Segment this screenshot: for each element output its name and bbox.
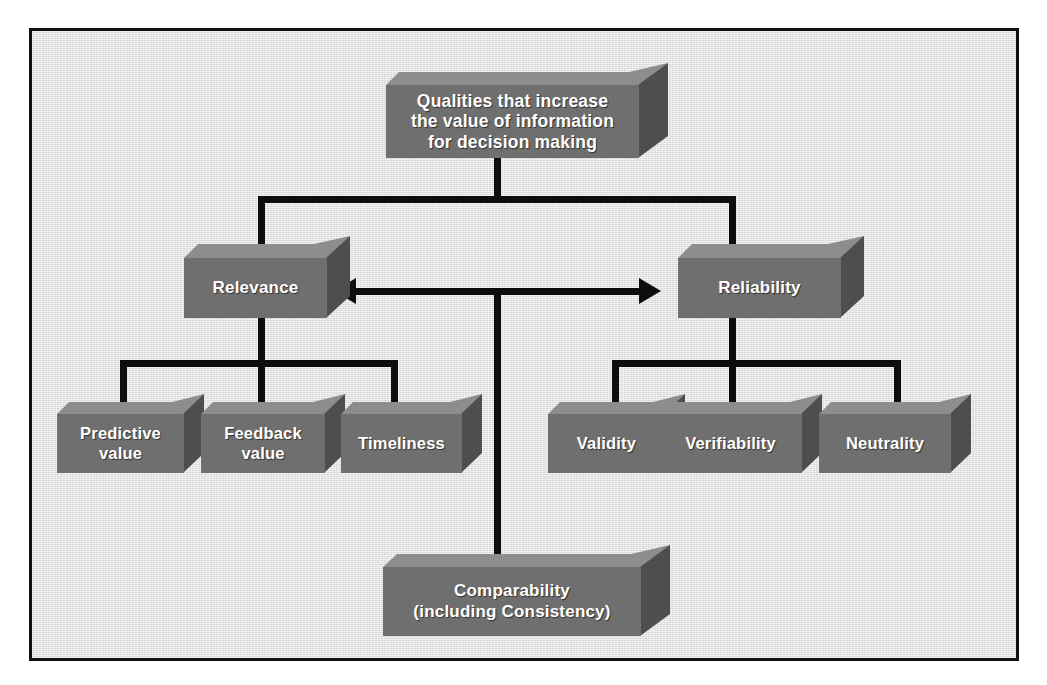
arrow-shaft (356, 288, 639, 295)
connector-split-bar (258, 196, 736, 203)
box-front-face: Reliability (678, 258, 841, 318)
node-neutrality[interactable]: Neutrality (819, 394, 971, 473)
node-verifiability[interactable]: Verifiability (659, 394, 822, 473)
node-comparability[interactable]: Comparability (including Consistency) (383, 545, 670, 636)
box-front-face: Qualities that increase the value of inf… (386, 85, 639, 158)
diagram-canvas: Qualities that increase the value of inf… (0, 0, 1047, 685)
arrow-head-right-icon (639, 278, 661, 304)
diagram-content: Qualities that increase the value of inf… (0, 0, 1047, 685)
box-front-face: Timeliness (341, 414, 462, 473)
node-label: Validity (571, 434, 642, 453)
node-label: Qualities that increase the value of inf… (405, 91, 620, 153)
node-qualities-title[interactable]: Qualities that increase the value of inf… (386, 63, 668, 158)
node-label: Predictive value (74, 424, 167, 463)
box-front-face: Verifiability (659, 414, 802, 473)
node-relevance[interactable]: Relevance (184, 236, 350, 318)
node-label: Timeliness (352, 434, 451, 453)
box-front-face: Comparability (including Consistency) (383, 567, 641, 636)
box-front-face: Predictive value (57, 414, 184, 473)
node-reliability[interactable]: Reliability (678, 236, 864, 318)
node-label: Verifiability (679, 434, 782, 453)
connector-arrow-to-comparability (494, 290, 501, 558)
node-label: Relevance (207, 278, 305, 298)
node-label: Neutrality (840, 434, 930, 453)
box-front-face: Feedback value (201, 414, 325, 473)
node-label: Comparability (including Consistency) (407, 581, 616, 621)
node-timeliness[interactable]: Timeliness (341, 394, 482, 473)
node-label: Reliability (712, 278, 807, 298)
connector-reliability-down (729, 316, 736, 366)
box-front-face: Neutrality (819, 414, 951, 473)
node-predictive-value[interactable]: Predictive value (57, 394, 204, 473)
box-front-face: Validity (548, 414, 665, 473)
node-label: Feedback value (218, 424, 308, 463)
connector-relevance-down (258, 316, 265, 366)
connector-reliability-child-bar (612, 360, 901, 367)
node-feedback-value[interactable]: Feedback value (201, 394, 345, 473)
box-front-face: Relevance (184, 258, 327, 318)
